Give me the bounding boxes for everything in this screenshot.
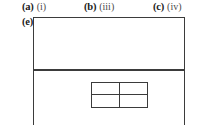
outer-rectangle xyxy=(33,17,185,125)
answer-item-b: (b)(iii) xyxy=(84,0,114,13)
answer-key-e: (e) xyxy=(22,16,33,27)
answer-key-b: (b) xyxy=(84,1,96,12)
answer-key-a: (a) xyxy=(22,1,34,12)
answer-item-a: (a)(i) xyxy=(22,0,46,13)
answer-key-row: (a)(i) (b)(iii) (c)(iv) xyxy=(0,0,198,13)
answer-item-e: (e) xyxy=(22,13,33,28)
grid-cell xyxy=(120,95,148,107)
answer-value-a: (i) xyxy=(37,1,46,12)
answer-value-b: (iii) xyxy=(99,1,114,12)
answer-item-c: (c)(iv) xyxy=(153,0,182,13)
answer-value-c: (iv) xyxy=(167,1,181,12)
grid-cell xyxy=(92,95,120,107)
figure-root: (a)(i) (b)(iii) (c)(iv) (e) xyxy=(0,0,198,125)
inner-grid xyxy=(91,82,148,108)
grid-cell xyxy=(92,83,120,95)
horizontal-divider-line xyxy=(33,69,185,71)
answer-key-c: (c) xyxy=(153,1,164,12)
diagram-area xyxy=(33,17,185,125)
grid-cell xyxy=(120,83,148,95)
